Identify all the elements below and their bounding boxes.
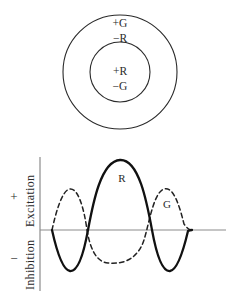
positive-sign-label: + — [10, 189, 17, 204]
curve-label-R: R — [118, 172, 126, 184]
response-plot: Excitation Inhibition + − R G — [10, 157, 226, 291]
outer-ring-inhibitory-label: −R — [113, 32, 127, 44]
y-axis-upper-label: Excitation — [23, 175, 37, 227]
outer-ring-excitatory-label: +G — [113, 17, 128, 29]
curve-G-dashed — [52, 189, 192, 263]
inner-disc-excitatory-label: +R — [113, 65, 127, 77]
negative-sign-label: − — [10, 251, 17, 266]
y-axis-lower-label: Inhibition — [23, 240, 37, 290]
curve-label-G: G — [163, 198, 171, 210]
concentric-receptive-field: +G −R +R −G — [63, 15, 177, 129]
inner-disc-inhibitory-label: −G — [113, 80, 128, 92]
figure-root: +G −R +R −G Excitation Inhibition + − R … — [0, 0, 235, 296]
